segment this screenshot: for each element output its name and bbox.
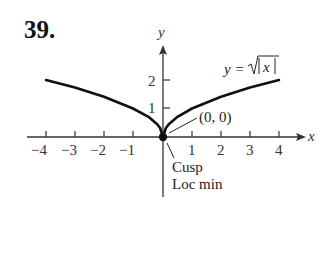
y-tick-label: 1 bbox=[148, 100, 156, 116]
svg-text:y =: y = bbox=[222, 61, 245, 77]
cusp-label: Cusp bbox=[172, 159, 203, 175]
point-label: (0, 0) bbox=[199, 109, 232, 126]
origin-point bbox=[159, 133, 167, 141]
y-ticks bbox=[163, 80, 170, 108]
x-tick-label: −4 bbox=[31, 142, 47, 158]
equation-prefix: y = bbox=[222, 61, 245, 77]
x-tick-label: 2 bbox=[217, 142, 225, 158]
x-tick-label: −3 bbox=[61, 142, 77, 158]
y-tick-label: 2 bbox=[148, 73, 156, 89]
x-tick-label: −1 bbox=[119, 142, 135, 158]
x-axis-label: x bbox=[307, 128, 315, 144]
y-axis-label: y bbox=[156, 24, 165, 40]
x-tick-label: −2 bbox=[90, 142, 106, 158]
x-tick-label: 3 bbox=[246, 142, 254, 158]
graph-figure: −4 −3 −2 −1 1 2 3 4 1 2 x y y = x (0, 0)… bbox=[0, 0, 325, 267]
equation-label: y = x bbox=[222, 56, 279, 77]
locmin-label: Loc min bbox=[172, 176, 223, 192]
x-tick-label: 4 bbox=[275, 142, 283, 158]
cusp-leader-line bbox=[167, 143, 174, 158]
x-tick-label: 1 bbox=[188, 142, 196, 158]
equation-radicand: x bbox=[262, 59, 270, 75]
